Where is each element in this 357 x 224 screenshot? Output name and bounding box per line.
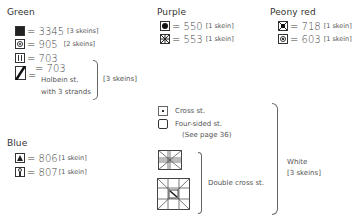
small-dot-icon (278, 34, 288, 44)
blue-item-806: = 806 [1 skein] (15, 152, 87, 164)
cross-stitch-icon (158, 106, 168, 116)
filled-square-icon (15, 26, 25, 36)
green-item-905: = 905 [2 skeins] (15, 38, 95, 50)
triangle-icon (15, 153, 25, 163)
star-cross-icon (160, 34, 170, 44)
double-cross-label: Double cross st. (208, 179, 264, 187)
purple-title: Purple (157, 7, 186, 17)
green-item-holbein: = = 703 Holbein st. with 3 strands (15, 64, 95, 104)
white-item-four-sided: Four-sided st. (158, 118, 222, 130)
x-box-icon (278, 21, 288, 31)
green-group-skein: [3 skeins] (103, 75, 137, 83)
double-cross-large-icon (157, 178, 190, 214)
filled-circle-icon (160, 21, 170, 31)
peony-item-603: = 603 [1 skein] (278, 33, 352, 45)
white-item-cross: Cross st. (158, 105, 205, 117)
green-item-3345: = 3345 [3 skeins] (15, 25, 99, 37)
green-title: Green (7, 7, 35, 17)
four-sided-icon (158, 119, 168, 129)
white-skein: [3 skeins] (287, 169, 321, 177)
double-cross-small-icon (158, 150, 182, 174)
double-bar-icon (15, 53, 25, 63)
blue-item-807: = 807 [1 skein] (15, 166, 87, 178)
white-color-label: White (287, 158, 307, 166)
dot-in-circle-icon (15, 39, 25, 49)
purple-item-550: = 550 [1 skein] (160, 20, 234, 32)
purple-item-553: = 553 [1 skein] (160, 33, 234, 45)
white-four-sided-sub: (See page 36) (182, 131, 231, 139)
green-brace (93, 60, 98, 100)
peony-title: Peony red (270, 7, 316, 17)
double-cross-brace (198, 152, 202, 214)
figure-icon (15, 167, 25, 177)
diagonal-holbein-icon (15, 66, 26, 80)
white-brace (272, 103, 278, 215)
blue-title: Blue (7, 138, 27, 148)
peony-item-718: = 718 [1 skein] (278, 20, 352, 32)
